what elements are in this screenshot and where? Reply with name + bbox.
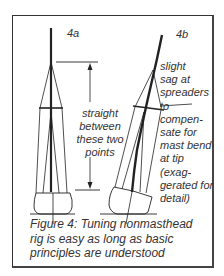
annotation-sag: slight sag at spreaders to compen- sate …: [160, 60, 220, 205]
panel-label-4b: 4b: [176, 29, 188, 40]
figure-caption: Figure 4: Tuning nonmasthead rig is easy…: [30, 217, 210, 261]
panel-label-4a: 4a: [67, 28, 79, 39]
annotation-straight: straight between these two points: [69, 107, 131, 159]
